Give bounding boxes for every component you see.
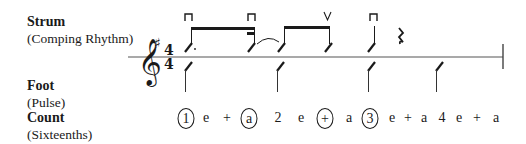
down-bow-icon (248, 14, 255, 21)
quarter-rest-icon (399, 28, 403, 44)
count-syllable: + (468, 108, 486, 128)
time-sig-bottom: 4 (164, 56, 174, 72)
count-syllable: a (415, 108, 433, 128)
count-syllable: e (450, 108, 468, 128)
slash-note (368, 62, 375, 71)
slash-note (325, 43, 332, 52)
count-syllable: + (218, 108, 236, 128)
count-syllable: e (197, 108, 215, 128)
count-syllable: 2 (269, 108, 287, 128)
beam (284, 26, 330, 29)
sharp-icon: ♯ (154, 35, 161, 51)
count-syllable: e (292, 108, 310, 128)
slash-note (278, 43, 285, 52)
strum-notes (185, 43, 375, 52)
up-bow-icon (324, 12, 331, 20)
beam-sixteenth (247, 32, 255, 35)
count-syllable: 1 (178, 108, 195, 129)
dot (194, 48, 196, 50)
tie (257, 38, 279, 44)
count-syllable: a (487, 108, 505, 128)
count-row: 1 e + a 2 e + a 3 e + a 4 e + a (0, 108, 526, 128)
foot-notes (185, 62, 443, 71)
count-syllable: + (317, 108, 334, 129)
down-bow-icon (370, 14, 377, 21)
slash-note (248, 43, 255, 52)
beam (191, 27, 255, 30)
count-syllable: a (340, 108, 358, 128)
slash-note (436, 62, 443, 71)
down-bow-icon (185, 14, 192, 21)
slash-note (185, 62, 192, 71)
count-syllable: 3 (362, 108, 379, 129)
slash-note (368, 43, 375, 52)
count-syllable: a (241, 108, 258, 129)
slash-note (277, 62, 284, 71)
slash-note (185, 43, 192, 52)
count-syllable: 4 (433, 108, 451, 128)
